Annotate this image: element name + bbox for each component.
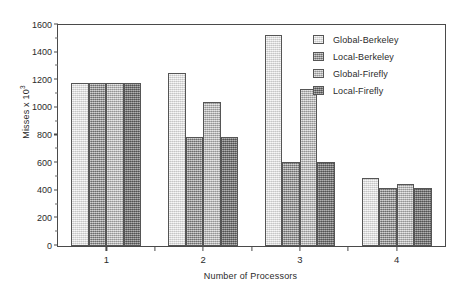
bar [379,188,397,246]
bar [317,162,335,246]
bar [265,35,283,246]
legend-swatch-icon [313,52,324,61]
y-axis-minor-tick [55,148,58,149]
x-axis-separator-tick [251,246,252,251]
y-axis-tick-mark [54,106,59,107]
y-axis-tick-label: 1000 [32,102,52,112]
x-axis-tick-label: 4 [394,254,399,265]
bar [106,83,124,246]
y-axis-label-exponent: 3 [19,85,26,89]
y-axis-tick-mark [54,189,59,190]
y-axis-tick-label: 1600 [32,19,52,29]
legend-item-label: Global-Firefly [333,69,388,79]
bar [414,188,432,246]
bar [124,83,142,246]
y-axis-tick-mark [54,217,59,218]
y-axis-minor-tick [55,203,58,204]
legend: Global-BerkeleyLocal-BerkeleyGlobal-Fire… [313,31,441,99]
x-axis-tick-mark [203,246,204,251]
legend-swatch-icon [313,35,324,44]
y-axis-minor-tick [55,37,58,38]
legend-item-label: Global-Berkeley [333,35,399,45]
x-axis-separator-tick [348,246,349,251]
legend-item-label: Local-Berkeley [333,52,394,62]
x-axis-tick-mark [299,246,300,251]
x-axis-tick-label: 2 [200,254,205,265]
y-axis-label-text: Misses x 10 [21,89,31,139]
bar [397,184,415,246]
y-axis-label: Misses x 103 [19,42,31,182]
y-axis-tick-mark [54,79,59,80]
y-axis-minor-tick [55,65,58,66]
bar [89,83,107,246]
y-axis-minor-tick [55,120,58,121]
x-axis-tick-label: 3 [297,254,302,265]
bar [168,73,186,246]
bar [300,89,318,246]
bar-chart-figure: Misses x 103 Number of Processors 020040… [0,0,457,293]
legend-item-label: Local-Firefly [333,86,383,96]
bar [221,137,239,246]
y-axis-minor-tick [55,231,58,232]
y-axis-tick-mark [54,51,59,52]
y-axis-tick-label: 1200 [32,74,52,84]
y-axis-tick-mark [54,23,59,24]
y-axis-tick-label: 600 [37,157,52,167]
y-axis-tick-label: 0 [47,240,52,250]
legend-item: Local-Firefly [313,82,441,99]
legend-swatch-icon [313,86,324,95]
y-axis-tick-mark [54,134,59,135]
legend-item: Global-Firefly [313,65,441,82]
legend-swatch-icon [313,69,324,78]
x-axis-label: Number of Processors [57,271,444,281]
y-axis-minor-tick [55,93,58,94]
bar [186,137,204,246]
bar [362,178,380,246]
bar [282,162,300,246]
y-axis-tick-mark [54,162,59,163]
y-axis-tick-label: 400 [37,185,52,195]
bar [203,102,221,246]
y-axis-minor-tick [55,175,58,176]
legend-item: Local-Berkeley [313,48,441,65]
legend-item: Global-Berkeley [313,31,441,48]
y-axis-tick-mark [54,244,59,245]
y-axis-tick-label: 1400 [32,47,52,57]
x-axis-separator-tick [154,246,155,251]
bar [71,83,89,246]
x-axis-tick-mark [396,246,397,251]
y-axis-tick-label: 800 [37,130,52,140]
plot-area: 02004006008001000120014001600 1234 Globa… [57,24,446,247]
x-axis-tick-label: 1 [104,254,109,265]
y-axis-tick-label: 200 [37,212,52,222]
x-axis-tick-mark [106,246,107,251]
